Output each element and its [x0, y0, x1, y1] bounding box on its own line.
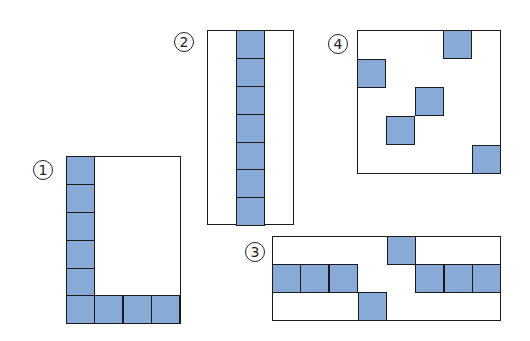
figure-4-square [415, 87, 444, 116]
figure-2-square [236, 114, 265, 143]
figure-3-square [472, 264, 501, 293]
figure-1-square [66, 156, 95, 185]
figure-2-square [236, 86, 265, 115]
figure-1-square [151, 295, 180, 324]
figure-1-square [94, 295, 123, 324]
figure-4-square [472, 145, 501, 174]
figure-3-square [300, 264, 329, 293]
figure-3-square [358, 292, 387, 321]
figure-2-square [236, 142, 265, 171]
figure-1-number-label: 1 [33, 160, 53, 180]
figure-1-square [66, 295, 95, 324]
figure-3-square [272, 264, 301, 293]
figure-4-square [357, 59, 386, 88]
figure-1-square [66, 240, 95, 269]
figure-4-square [386, 116, 415, 145]
figure-4-square [443, 30, 472, 59]
figure-3-number-label: 3 [245, 242, 265, 262]
figure-1-square [66, 212, 95, 241]
figure-1-square [66, 184, 95, 213]
figure-3-square [387, 236, 416, 265]
figure-3-square [415, 264, 444, 293]
figure-2-number-label: 2 [174, 32, 194, 52]
figure-2-square [236, 30, 265, 59]
figure-3-square [329, 264, 358, 293]
figure-4-number-label: 4 [328, 34, 348, 54]
figure-2-square [236, 169, 265, 198]
figure-1-square [123, 295, 152, 324]
figure-2-square [236, 58, 265, 87]
figure-3-square [444, 264, 473, 293]
figure-2-square [236, 197, 265, 226]
figure-1-square [66, 268, 95, 297]
